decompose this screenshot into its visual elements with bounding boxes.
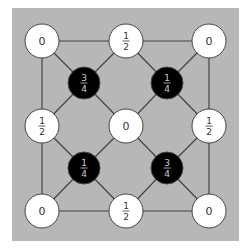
node-label: 0 <box>39 35 46 48</box>
fraction-denominator: 4 <box>164 169 170 179</box>
node-b1: 34 <box>68 67 100 99</box>
node-label: 0 <box>123 120 130 133</box>
node-tm: 12 <box>109 24 143 58</box>
fraction-numerator: 1 <box>123 31 129 41</box>
node-br: 0 <box>192 194 226 228</box>
fraction-denominator: 4 <box>164 84 170 94</box>
grid-diagram: 012012012012034141434 <box>0 0 251 249</box>
fraction-numerator: 1 <box>123 201 129 211</box>
node-mr: 12 <box>192 109 226 143</box>
fraction-denominator: 2 <box>39 127 45 137</box>
fraction-numerator: 1 <box>164 73 170 83</box>
fraction-denominator: 2 <box>123 42 129 52</box>
node-tr: 0 <box>192 24 226 58</box>
fraction-denominator: 2 <box>206 127 212 137</box>
node-bl: 0 <box>25 194 59 228</box>
fraction-numerator: 3 <box>164 158 170 168</box>
fraction-denominator: 4 <box>81 84 87 94</box>
node-b3: 14 <box>68 152 100 184</box>
node-label: 0 <box>39 205 46 218</box>
node-b2: 14 <box>151 67 183 99</box>
node-c: 0 <box>109 109 143 143</box>
fraction-numerator: 1 <box>206 116 212 126</box>
node-bm: 12 <box>109 194 143 228</box>
fraction-numerator: 3 <box>81 73 87 83</box>
node-tl: 0 <box>25 24 59 58</box>
fraction-denominator: 4 <box>81 169 87 179</box>
node-ml: 12 <box>25 109 59 143</box>
node-b4: 34 <box>151 152 183 184</box>
fraction-numerator: 1 <box>81 158 87 168</box>
fraction-numerator: 1 <box>39 116 45 126</box>
node-label: 0 <box>206 35 213 48</box>
fraction-denominator: 2 <box>123 212 129 222</box>
diagram-canvas: 012012012012034141434 <box>0 0 251 249</box>
node-label: 0 <box>206 205 213 218</box>
